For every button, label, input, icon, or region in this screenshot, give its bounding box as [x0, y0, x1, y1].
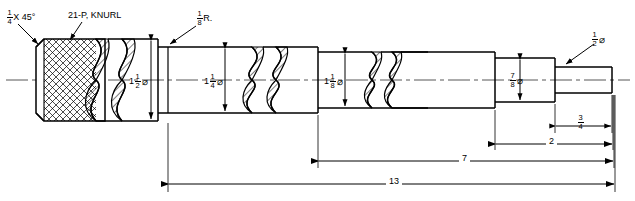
dia2-fraction: 1 4: [210, 73, 216, 90]
length-label-thirteen: 13: [386, 177, 402, 186]
dimension-label-1-1-2-dia: 1 1 2 ⌀: [129, 73, 148, 90]
dia5-fraction: 1 2: [592, 31, 598, 48]
note-chamfer-suffix: X 45°: [13, 13, 35, 22]
leader-chamfer: [18, 24, 38, 44]
note-chamfer-fraction: 1 4: [7, 9, 13, 26]
length-label-seven: 7: [459, 154, 470, 163]
part-drawing: [0, 0, 635, 201]
note-radius-suffix: R.: [203, 14, 212, 23]
dimension-label-7-8-dia: 7 8 ⌀: [509, 72, 523, 89]
leader-radius: [170, 26, 196, 44]
len-seven-value: 7: [462, 154, 467, 163]
length-label-three-quarter: 3 4: [577, 114, 584, 131]
dia3-fraction: 1 8: [330, 73, 336, 90]
len-two-value: 2: [549, 137, 554, 146]
dimension-label-1-1-8-dia: 1 1 8 ⌀: [324, 73, 343, 90]
dia2-whole: 1: [204, 77, 209, 86]
knurled-head-section: [36, 39, 105, 121]
len-three-quarter-fraction: 3 4: [578, 114, 584, 131]
dia4-fraction: 7 8: [510, 72, 516, 89]
note-knurl-text: 21-P, KNURL: [68, 11, 121, 20]
dia2-symbol: ⌀: [217, 77, 223, 87]
note-chamfer: 1 4 X 45°: [6, 9, 35, 26]
note-radius-fraction: 1 8: [197, 10, 203, 27]
leader-knurl: [70, 22, 82, 40]
note-radius: 1 8 R.: [196, 10, 212, 27]
note-knurl: 21-P, KNURL: [68, 11, 121, 20]
dia3-symbol: ⌀: [337, 77, 343, 87]
dia1-whole: 1: [129, 77, 134, 86]
dimension-label-1-2-dia: 1 2 ⌀: [591, 31, 605, 48]
dia5-symbol: ⌀: [599, 35, 605, 45]
dia1-fraction: 1 2: [135, 73, 141, 90]
dia4-symbol: ⌀: [517, 76, 523, 86]
dimension-label-1-1-4-dia: 1 1 4 ⌀: [204, 73, 223, 90]
length-label-two: 2: [546, 137, 557, 146]
dia3-whole: 1: [324, 77, 329, 86]
leader-half-dia: [566, 44, 594, 64]
len-thirteen-value: 13: [389, 177, 399, 186]
dia1-symbol: ⌀: [142, 77, 148, 87]
